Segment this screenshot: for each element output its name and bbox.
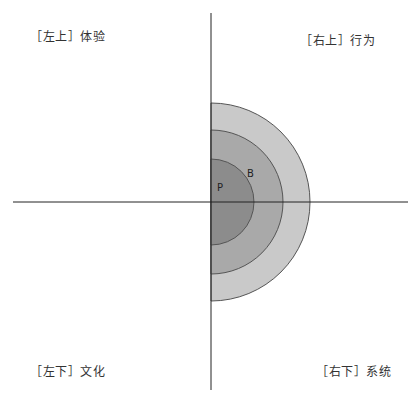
quadrant-label-bottom-left: ［左下］文化: [30, 362, 105, 379]
quadrant-label-top-right: ［右上］行为: [300, 31, 375, 48]
ring-label-p: P: [217, 182, 223, 193]
quadrant-diagram: B P ［左上］体验 ［右上］行为 ［左下］文化 ［右下］系统: [0, 0, 420, 401]
ring-label-b: B: [247, 168, 254, 179]
quadrant-label-top-left: ［左上］体验: [30, 27, 105, 44]
quadrant-label-bottom-right: ［右下］系统: [316, 362, 391, 379]
diagram-canvas: B P: [0, 0, 420, 401]
